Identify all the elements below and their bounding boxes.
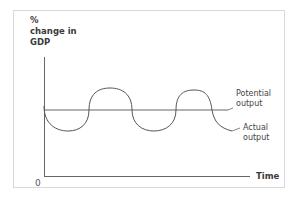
potential-output-leader — [228, 108, 233, 110]
actual-output-leader — [232, 128, 240, 131]
label-leaders — [0, 0, 297, 199]
